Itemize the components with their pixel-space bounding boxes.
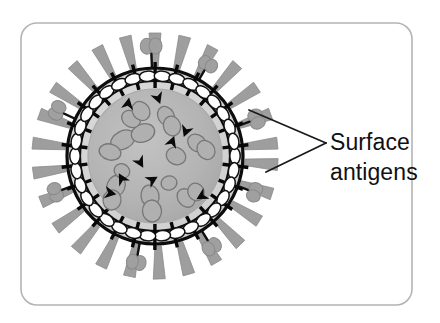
capsomere [230,148,240,164]
surface-antigens-label-line2: antigens [330,159,418,185]
capsomere [70,148,80,164]
figure-page: Surface antigens [0,0,440,323]
knob-lobe [149,38,163,54]
virus-diagram-svg: Surface antigens [0,0,440,323]
surface-antigens-label-line1: Surface [330,129,410,155]
